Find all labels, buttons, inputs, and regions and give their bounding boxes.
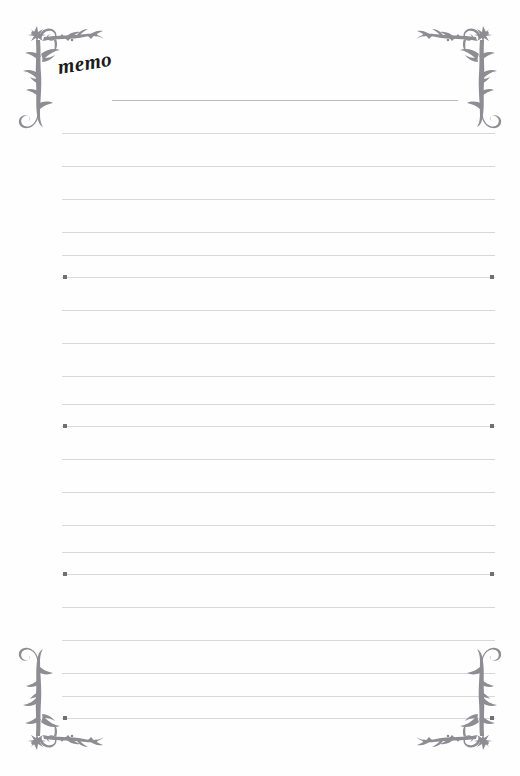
- rule-line: [62, 459, 495, 460]
- rule-line: [62, 426, 495, 427]
- rule-dot-left: [63, 716, 67, 720]
- rule-line: [62, 640, 495, 641]
- rule-line: [62, 255, 495, 256]
- rule-dot-left: [63, 424, 67, 428]
- rule-line: [62, 574, 495, 575]
- rule-line: [62, 133, 495, 134]
- title-rule-line: [112, 100, 458, 101]
- rule-line: [62, 404, 495, 405]
- rule-line: [62, 166, 495, 167]
- rule-dot-left: [63, 275, 67, 279]
- rule-dot-left: [63, 572, 67, 576]
- rule-line: [62, 277, 495, 278]
- rule-line: [62, 673, 495, 674]
- rule-dot-right: [490, 572, 494, 576]
- rule-dot-right: [490, 275, 494, 279]
- ruled-lines-layer: [0, 0, 520, 776]
- rule-line: [62, 343, 495, 344]
- rule-dot-right: [490, 716, 494, 720]
- memo-page: memo: [0, 0, 520, 776]
- rule-line: [62, 376, 495, 377]
- rule-dot-right: [490, 424, 494, 428]
- rule-line: [62, 525, 495, 526]
- rule-line: [62, 718, 495, 719]
- rule-line: [62, 199, 495, 200]
- rule-line: [62, 310, 495, 311]
- rule-line: [62, 492, 495, 493]
- rule-line: [62, 232, 495, 233]
- rule-line: [62, 552, 495, 553]
- rule-line: [62, 696, 495, 697]
- rule-line: [62, 607, 495, 608]
